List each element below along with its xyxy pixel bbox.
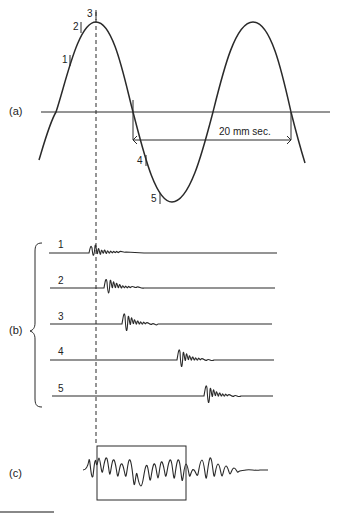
trace-label-2: 2 [58,276,64,286]
trace-5 [52,386,273,403]
brace [30,243,42,407]
trace-label-3: 3 [58,312,64,322]
trace-label-4: 4 [58,347,64,357]
diagram-figure [0,0,341,514]
trace-1 [49,245,277,255]
trace-label-5: 5 [58,384,64,394]
period-annotation: 20 mm sec. [219,127,271,137]
panel-a-label: (a) [9,106,22,117]
point-label-3: 3 [87,9,93,19]
point-label-1: 1 [62,55,68,65]
panel-c-label: (c) [9,468,22,479]
point-label-2: 2 [73,22,79,32]
trace-label-1: 1 [58,240,64,250]
trace-3 [50,314,272,331]
point-label-4: 4 [137,156,143,166]
point-label-5: 5 [151,194,157,204]
panel-b-label: (b) [9,325,22,336]
composite-trace [83,458,268,486]
trace-4 [50,350,274,367]
trace-2 [50,280,275,293]
